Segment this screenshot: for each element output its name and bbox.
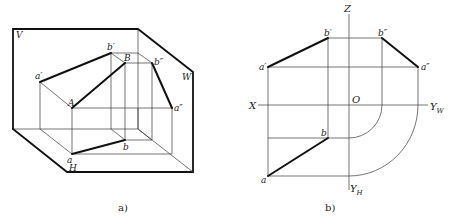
label-V: V (16, 30, 24, 40)
segment-b-dp-a-dp (382, 38, 418, 67)
label-b: b (123, 142, 129, 152)
label-b-double-prime: b″ (154, 57, 164, 67)
label-b-double-prime: b″ (378, 28, 388, 38)
label-a-double-prime: a″ (174, 103, 183, 113)
label-O: O (352, 94, 360, 105)
label-a: a (67, 155, 72, 165)
caption-a: a) (118, 202, 128, 213)
label-a-prime: a′ (35, 71, 42, 81)
label-A: A (67, 98, 75, 108)
segment-ab (72, 140, 125, 154)
segment-AB (72, 63, 125, 108)
label-a-prime: a′ (259, 62, 266, 72)
figure-b: Z X O YW YH a′ b′ b″ a″ b a b) (248, 3, 445, 213)
label-b-prime: b′ (324, 28, 332, 38)
figure-a: V W H a′ b′ B b″ a″ A a b a) (13, 29, 193, 213)
label-B: B (123, 53, 131, 63)
segment-a-prime-b-prime (268, 38, 328, 67)
label-W: W (182, 72, 192, 82)
label-YW: YW (430, 101, 445, 115)
segment-a-prime-b-prime (40, 53, 111, 82)
transfer-arc-b (349, 105, 382, 138)
segment-ab (268, 138, 328, 176)
diagram-canvas: V W H a′ b′ B b″ a″ A a b a) Z X (0, 0, 449, 221)
label-b-prime: b′ (107, 42, 115, 52)
label-a: a (261, 175, 266, 185)
label-X: X (248, 100, 257, 111)
transfer-arc-a (349, 105, 418, 176)
label-Z: Z (343, 3, 352, 14)
caption-b: b) (325, 202, 335, 213)
label-a-double-prime: a″ (421, 62, 430, 72)
label-b: b (321, 128, 327, 138)
label-YH: YH (350, 183, 364, 197)
segment-b-dp-a-dp (152, 63, 172, 108)
